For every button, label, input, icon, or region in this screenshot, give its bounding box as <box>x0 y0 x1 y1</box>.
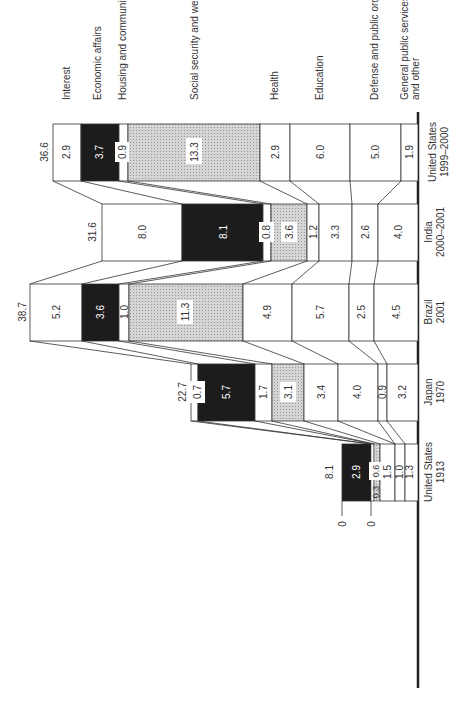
chart: 36.6 2.9 3.7 0.9 13.3 2.9 6.0 5.0 1.9 31… <box>0 0 463 703</box>
svg-text:1.5: 1.5 <box>382 465 393 479</box>
svg-text:3.2: 3.2 <box>397 385 408 399</box>
svg-text:4.9: 4.9 <box>262 305 273 319</box>
svg-text:2000–2001: 2000–2001 <box>435 207 446 257</box>
legend-social-security: Social security and welfare <box>189 0 200 100</box>
svg-text:0.6: 0.6 <box>371 465 381 478</box>
total-us-1999: 36.6 <box>39 142 50 162</box>
svg-text:0.9: 0.9 <box>377 385 388 399</box>
svg-text:1999–2000: 1999–2000 <box>439 127 450 177</box>
svg-text:8.0: 8.0 <box>137 225 148 239</box>
legend-general-and-other: and other <box>410 57 421 100</box>
legend-housing: Housing and community affairs <box>117 0 128 100</box>
svg-text:5.2: 5.2 <box>51 305 62 319</box>
zero-marker-interest: 0 <box>337 521 348 527</box>
svg-text:4.5: 4.5 <box>391 305 402 319</box>
svg-text:1913: 1913 <box>435 460 446 483</box>
svg-text:3.1: 3.1 <box>283 385 294 399</box>
total-brazil: 38.7 <box>17 302 28 322</box>
svg-text:11.3: 11.3 <box>180 302 191 321</box>
svg-text:1.9: 1.9 <box>404 145 415 159</box>
category-labels: United States 1999–2000 India 2000–2001 … <box>423 122 450 502</box>
total-us-1913: 8.1 <box>324 465 335 479</box>
svg-text:4.0: 4.0 <box>393 225 404 239</box>
svg-text:3.6: 3.6 <box>284 225 295 239</box>
svg-text:13.3: 13.3 <box>189 142 200 162</box>
svg-text:3.7: 3.7 <box>94 145 105 159</box>
legend-general-public-services: General public services <box>399 0 410 100</box>
svg-text:3.3: 3.3 <box>330 225 341 239</box>
svg-text:2.9: 2.9 <box>61 145 72 159</box>
svg-text:3.4: 3.4 <box>316 385 327 399</box>
legend-defense: Defense and public order <box>369 0 380 100</box>
zero-marker-housing: 0 <box>366 521 377 527</box>
svg-text:1.2: 1.2 <box>308 225 319 239</box>
svg-text:6.0: 6.0 <box>315 145 326 159</box>
legend-health: Health <box>269 71 280 100</box>
svg-text:1.7: 1.7 <box>258 385 269 399</box>
total-japan: 22.7 <box>177 382 188 402</box>
svg-text:4.0: 4.0 <box>352 385 363 399</box>
svg-text:2.5: 2.5 <box>356 305 367 319</box>
svg-text:5.7: 5.7 <box>315 305 326 319</box>
svg-text:2001: 2001 <box>435 300 446 323</box>
svg-text:0.9: 0.9 <box>117 145 128 159</box>
series-legend: Interest Economic affairs Housing and co… <box>61 0 421 100</box>
svg-text:5.0: 5.0 <box>370 145 381 159</box>
total-india: 31.6 <box>87 222 98 242</box>
svg-text:2.6: 2.6 <box>360 225 371 239</box>
svg-text:2.9: 2.9 <box>270 145 281 159</box>
svg-text:3.6: 3.6 <box>95 305 106 319</box>
svg-text:India: India <box>423 221 434 243</box>
svg-text:United States: United States <box>423 442 434 502</box>
legend-interest: Interest <box>61 66 72 100</box>
svg-text:United States: United States <box>427 122 438 182</box>
svg-text:Brazil: Brazil <box>423 299 434 324</box>
svg-text:0.7: 0.7 <box>192 385 203 399</box>
legend-education: Education <box>314 56 325 100</box>
svg-text:1970: 1970 <box>435 380 446 403</box>
svg-text:5.7: 5.7 <box>221 385 232 399</box>
column-us-1999 <box>53 124 418 181</box>
svg-text:Japan: Japan <box>423 378 434 405</box>
svg-text:0.3: 0.3 <box>371 486 381 499</box>
svg-text:2.9: 2.9 <box>351 465 362 479</box>
legend-economic-affairs: Economic affairs <box>92 26 103 100</box>
svg-text:1.3: 1.3 <box>404 465 415 479</box>
svg-text:0.8: 0.8 <box>261 225 272 239</box>
svg-text:1.0: 1.0 <box>119 305 130 319</box>
svg-text:8.1: 8.1 <box>218 225 229 239</box>
